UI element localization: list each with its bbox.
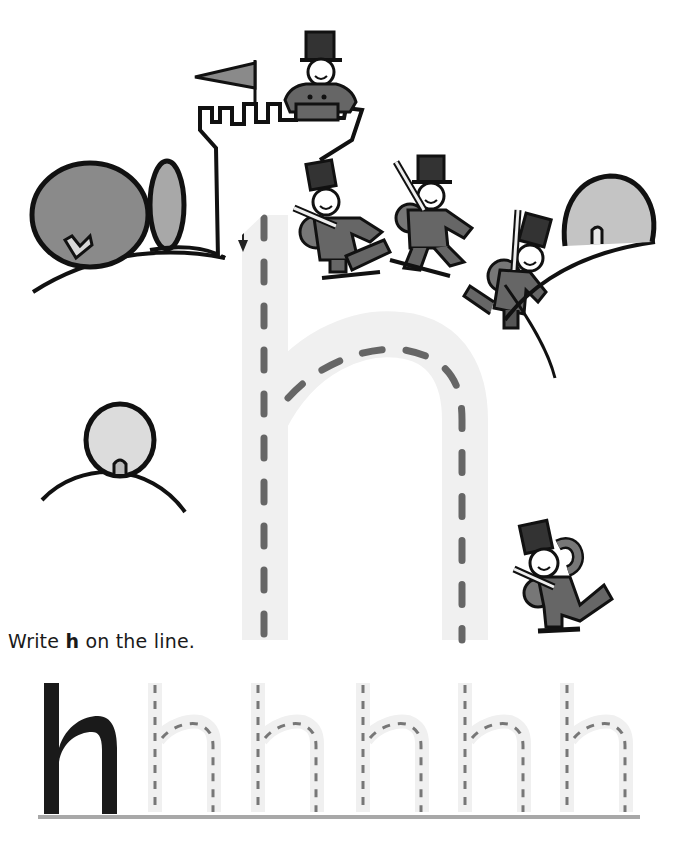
instruction-suffix: on the line.	[79, 630, 195, 652]
trace-letter-h-5[interactable]	[567, 683, 626, 812]
letter-h-worksheet: Write h on the line.	[0, 0, 689, 853]
practice-row	[0, 670, 689, 853]
small-hill	[42, 404, 185, 512]
soldier-4	[514, 520, 612, 631]
marching-soldiers	[294, 156, 551, 328]
soldier-on-castle	[285, 32, 356, 120]
soldier-2	[390, 156, 472, 276]
soldier-3	[464, 210, 551, 328]
left-hill	[32, 161, 225, 292]
large-trace-letter-h	[264, 215, 465, 640]
instruction-prefix: Write	[8, 630, 65, 652]
trace-letter-h-2[interactable]	[258, 683, 317, 812]
instruction-text: Write h on the line.	[8, 630, 195, 652]
trace-letters	[155, 683, 626, 812]
trace-letter-h-4[interactable]	[465, 683, 524, 812]
soldier-1	[294, 160, 390, 278]
model-letter-h	[44, 683, 117, 814]
story-illustration	[0, 0, 689, 660]
trace-letter-h-1[interactable]	[155, 683, 214, 812]
instruction-letter: h	[65, 630, 79, 652]
trace-letter-h-3[interactable]	[363, 683, 422, 812]
